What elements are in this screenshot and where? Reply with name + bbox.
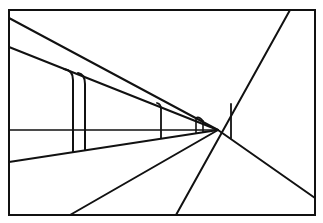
post-middle [157,103,161,138]
ground-diagonal-right [218,130,315,198]
post-near-right [78,73,85,150]
steep-diagonal [176,10,290,215]
ground-diagonal-left [70,130,218,215]
lower-roof-line [9,47,218,130]
upper-roof-line [9,18,218,130]
platform-edge-line [9,130,218,162]
picture-frame [9,10,315,215]
diagram-svg [0,0,323,223]
perspective-diagram [0,0,323,223]
post-near-left [64,69,73,152]
